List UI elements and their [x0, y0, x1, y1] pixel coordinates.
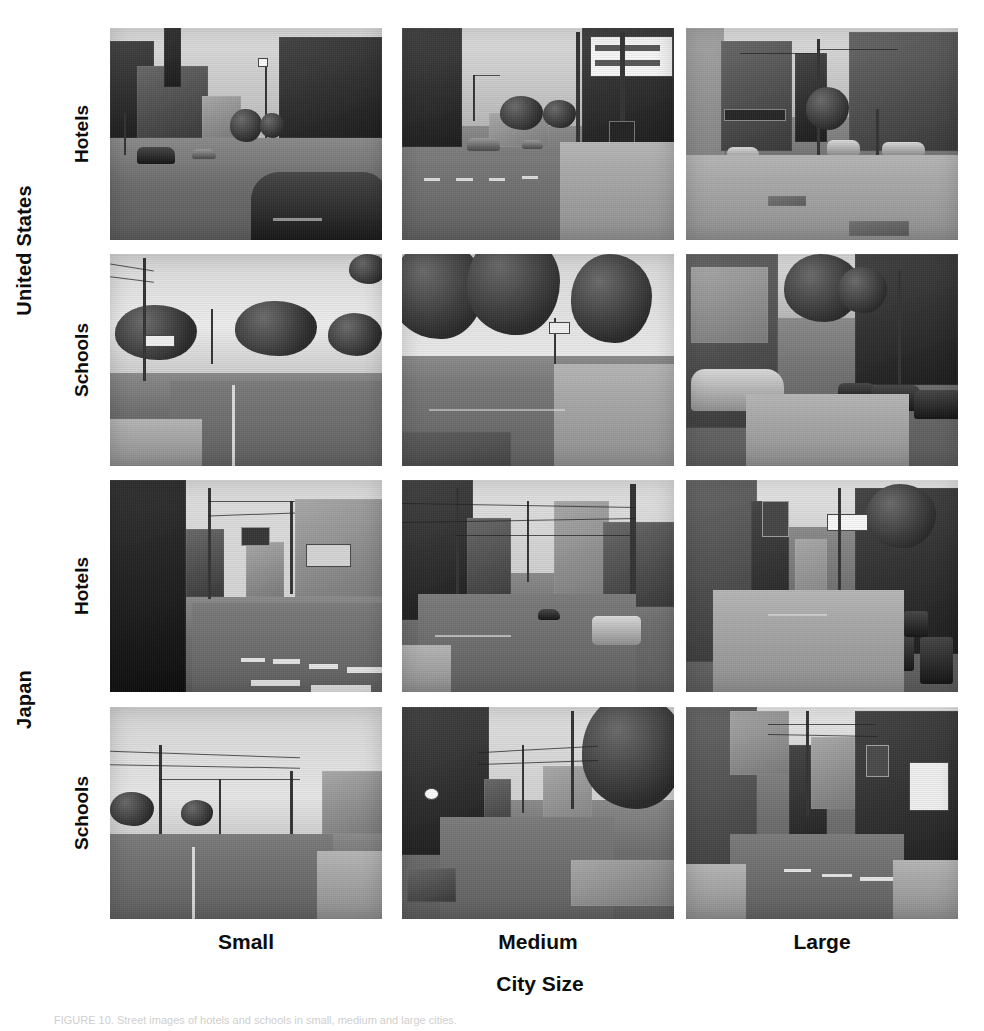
photo-row-us-schools [110, 254, 970, 466]
figure-caption: FIGURE 10. Street images of hotels and s… [54, 1014, 954, 1026]
photo-row-us-hotels [110, 28, 970, 240]
column-label-medium: Medium [402, 930, 674, 954]
photo-cell-japan-hotels-medium [402, 480, 674, 692]
photo-cell-us-hotels-large [686, 28, 958, 240]
row-label-text: Schools [71, 323, 93, 397]
photo-cell-us-hotels-small [110, 28, 382, 240]
photo-cell-japan-schools-medium [402, 707, 674, 919]
photo-cell-japan-hotels-small [110, 480, 382, 692]
photo-cell-us-schools-large [686, 254, 958, 466]
row-label-us-schools: Schools [58, 254, 106, 466]
photo-cell-japan-schools-small [110, 707, 382, 919]
photo-row-japan-schools [110, 707, 970, 919]
row-label-text: Hotels [71, 557, 93, 615]
row-group-label-united-states: United States [0, 28, 48, 472]
column-label-large: Large [686, 930, 958, 954]
photo-row-japan-hotels [110, 480, 970, 692]
photo-cell-japan-hotels-large [686, 480, 958, 692]
photo-cell-japan-schools-large [686, 707, 958, 919]
row-label-text: Schools [71, 776, 93, 850]
row-label-us-hotels: Hotels [58, 28, 106, 240]
column-label-small: Small [110, 930, 382, 954]
row-label-text: Hotels [71, 105, 93, 163]
row-group-label-japan: Japan [0, 478, 48, 920]
photo-cell-us-schools-medium [402, 254, 674, 466]
photo-cell-us-schools-small [110, 254, 382, 466]
figure-root: United States Japan Hotels Schools Hotel… [0, 0, 984, 1031]
photo-grid [110, 28, 970, 920]
row-group-label-text: United States [13, 185, 36, 315]
photo-cell-us-hotels-medium [402, 28, 674, 240]
row-label-japan-schools: Schools [58, 707, 106, 919]
x-axis-title: City Size [110, 972, 970, 996]
row-label-japan-hotels: Hotels [58, 480, 106, 692]
column-labels: Small Medium Large [110, 930, 970, 964]
row-group-label-text: Japan [13, 670, 36, 729]
